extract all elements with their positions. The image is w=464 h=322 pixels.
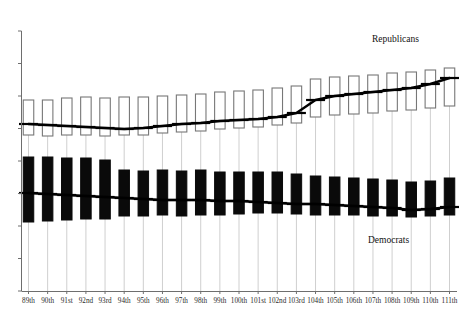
republican-boxes-group [23, 68, 455, 136]
y-axis-ticks [18, 31, 22, 291]
democrat-box [215, 172, 226, 215]
y-axis [18, 31, 22, 291]
x-tick-label: 100th [231, 297, 248, 305]
democrat-box [23, 157, 34, 222]
chart-canvas: 89th90th91st92nd93rd94th95th96th97th98th… [0, 0, 464, 322]
republican-box [444, 68, 455, 106]
republican-box [234, 91, 245, 128]
x-tick-label: 108th [384, 297, 401, 305]
republican-box [291, 86, 302, 123]
x-tick-label: 92nd [79, 297, 94, 305]
republican-box [62, 98, 73, 135]
republican-box [23, 100, 34, 135]
x-tick-label: 111th [442, 297, 458, 305]
x-tick-label: 94th [118, 297, 131, 305]
x-tick-label: 96th [156, 297, 169, 305]
democrat-box [425, 181, 436, 216]
democrat-box [329, 177, 340, 215]
democrat-box [195, 170, 206, 215]
democrat-box [234, 172, 245, 214]
x-tick-label: 106th [346, 297, 363, 305]
democrat-box [42, 157, 53, 221]
democrats-series-label: Democrats [368, 235, 409, 245]
x-tick-label: 98th [194, 297, 207, 305]
x-tick-label: 90th [41, 297, 54, 305]
x-tick-label: 93rd [98, 297, 112, 305]
democrat-box [138, 171, 149, 216]
x-tick-label: 105th [326, 297, 343, 305]
republican-box [272, 88, 283, 125]
democrat-box [100, 160, 111, 219]
republican-box [253, 90, 263, 127]
republican-box [42, 100, 53, 136]
republican-box [100, 98, 111, 136]
x-tick-label: 89th [22, 297, 35, 305]
republican-box [215, 92, 226, 129]
x-tick-label: 103rd [288, 297, 305, 305]
republican-box [195, 94, 206, 131]
democrat-box [157, 170, 168, 215]
x-tick-label: 102nd [268, 297, 286, 305]
democrat-box [291, 174, 302, 214]
republican-box [406, 72, 417, 110]
x-tick-label: 107th [365, 297, 382, 305]
republican-box [425, 70, 436, 108]
x-tick-label: 97th [175, 297, 188, 305]
democrat-box [81, 158, 92, 219]
democrat-box [119, 170, 130, 216]
democrat-box [253, 172, 263, 213]
democrat-box [272, 172, 283, 213]
congress-polarization-chart: 89th90th91st92nd93rd94th95th96th97th98th… [0, 0, 464, 322]
republican-box [176, 95, 187, 132]
x-axis-tick-labels: 89th90th91st92nd93rd94th95th96th97th98th… [22, 292, 458, 306]
democrat-box [387, 180, 398, 216]
republican-box [81, 97, 92, 135]
x-tick-label: 101st [250, 297, 266, 305]
republican-box [368, 75, 379, 113]
democrat-box [310, 176, 321, 215]
democrat-box [62, 158, 73, 220]
republican-box [387, 73, 398, 111]
x-tick-label: 91st [61, 297, 73, 305]
democrat-box [368, 179, 379, 216]
x-tick-label: 110th [422, 297, 439, 305]
republicans-series-label: Republicans [372, 34, 419, 44]
x-tick-label: 109th [403, 297, 420, 305]
x-tick-label: 99th [213, 297, 226, 305]
democrat-box [349, 178, 360, 215]
democrat-box [176, 171, 187, 216]
democrat-box [406, 182, 417, 217]
democrat-box [444, 178, 455, 215]
x-tick-label: 104th [307, 297, 324, 305]
x-tick-label: 95th [137, 297, 150, 305]
